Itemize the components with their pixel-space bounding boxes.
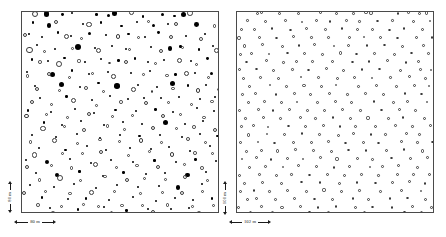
data-point-open	[64, 34, 69, 39]
data-point-filled	[44, 12, 49, 17]
data-point-open	[403, 27, 406, 30]
data-point-open	[416, 141, 419, 144]
data-point-open	[377, 174, 380, 177]
data-point-open	[197, 211, 200, 212]
data-point-open	[51, 211, 55, 212]
data-point-open	[317, 206, 320, 209]
data-point-open	[302, 84, 305, 87]
data-point-open	[400, 189, 403, 192]
data-point-open	[408, 180, 411, 183]
data-point-open	[277, 77, 280, 80]
data-point-open	[147, 20, 150, 23]
data-point-open	[255, 156, 258, 159]
data-point-filled	[41, 196, 43, 198]
data-point-open	[256, 12, 259, 15]
data-point-open	[68, 192, 72, 196]
data-point-open	[371, 158, 374, 161]
data-point-filled	[88, 32, 91, 35]
data-point-open	[405, 61, 408, 64]
data-point-open	[400, 140, 403, 143]
data-point-open	[257, 108, 260, 111]
data-point-open	[389, 197, 392, 200]
data-point-open	[297, 12, 300, 15]
data-point-open	[366, 44, 369, 47]
data-point-open	[406, 100, 409, 103]
data-point-open	[292, 141, 295, 144]
data-point-filled	[199, 133, 201, 135]
data-point-filled	[163, 59, 165, 61]
data-point-open	[148, 150, 151, 153]
data-point-open	[63, 125, 66, 128]
data-point-open	[341, 108, 344, 111]
data-point-open	[429, 124, 432, 127]
arrow-right-icon	[268, 220, 271, 224]
data-point-open	[71, 98, 76, 103]
data-point-open	[289, 29, 292, 32]
data-point-filled	[127, 33, 129, 35]
y-scale-bar-right: 100 m	[223, 181, 228, 211]
data-point-open	[316, 101, 319, 104]
data-point-open	[118, 140, 121, 143]
data-point-open	[199, 37, 203, 41]
data-point-open	[428, 85, 431, 88]
data-point-open	[237, 36, 240, 39]
data-point-filled	[194, 72, 196, 74]
data-point-open	[174, 22, 178, 26]
data-point-filled	[117, 59, 120, 62]
data-point-filled	[188, 207, 190, 209]
data-point-open	[108, 62, 111, 65]
data-point-open	[327, 36, 330, 39]
data-point-filled	[84, 61, 86, 63]
data-point-open	[40, 126, 45, 131]
data-point-open	[417, 60, 420, 63]
data-point-open	[116, 34, 121, 39]
data-point-open	[348, 165, 351, 168]
data-point-open	[106, 124, 109, 127]
data-point-open	[356, 181, 359, 184]
x-scale-label-right: 102 m	[242, 220, 258, 225]
data-point-open	[137, 36, 140, 39]
data-point-open	[415, 36, 418, 39]
data-point-open	[410, 52, 413, 55]
data-point-open	[347, 44, 350, 47]
data-point-open	[238, 109, 241, 112]
data-point-open	[390, 157, 393, 160]
data-point-open	[82, 203, 85, 206]
data-point-filled	[143, 97, 145, 99]
data-point-filled	[184, 123, 186, 125]
data-point-open	[50, 103, 53, 106]
data-point-open	[379, 36, 382, 39]
data-point-open	[392, 101, 395, 104]
data-point-open	[239, 141, 242, 144]
data-point-filled	[71, 69, 73, 71]
data-point-filled	[103, 124, 105, 126]
data-point-open	[335, 157, 338, 160]
data-point-open	[406, 197, 409, 200]
arrow-down-icon	[223, 212, 227, 215]
data-point-open	[70, 166, 74, 170]
data-point-filled	[127, 98, 130, 101]
data-point-open	[368, 60, 371, 63]
data-point-open	[333, 45, 336, 48]
data-point-open	[270, 158, 273, 161]
data-point-open	[314, 117, 317, 120]
data-point-open	[272, 109, 275, 112]
data-point-open	[204, 141, 207, 144]
data-point-open	[249, 211, 252, 212]
data-point-open	[93, 162, 98, 167]
data-point-filled	[187, 84, 190, 87]
data-point-filled	[168, 46, 172, 50]
data-point-open	[260, 12, 263, 14]
data-point-open	[247, 133, 250, 136]
data-point-open	[161, 114, 166, 119]
data-point-open	[339, 125, 342, 128]
data-point-open	[352, 132, 355, 135]
data-point-open	[419, 68, 422, 71]
data-point-open	[375, 84, 378, 87]
data-point-open	[395, 85, 398, 88]
data-point-open	[77, 59, 80, 62]
data-point-filled	[41, 36, 43, 38]
plot-frame-right	[236, 11, 434, 213]
data-point-filled	[189, 150, 191, 152]
data-point-open	[413, 84, 416, 87]
